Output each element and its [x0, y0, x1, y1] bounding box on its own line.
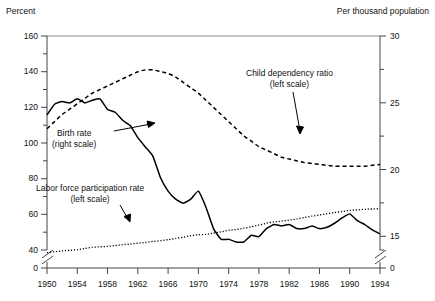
xtick-label-1966: 1966	[151, 279, 185, 289]
ytick-left-80: 80	[12, 173, 38, 183]
chart-container: Percent Per thousand population	[0, 0, 435, 301]
ytick-right-15: 15	[390, 231, 416, 241]
annotation-birth-rate-line2: (right scale)	[52, 139, 96, 150]
series-birth-rate	[47, 99, 380, 243]
annotation-birth-rate-line1: Birth rate	[52, 128, 96, 139]
x-axis-ticks	[47, 268, 380, 274]
annotation-child-dependency-line2: (left scale)	[246, 79, 333, 90]
series-labor-force-participation	[47, 209, 380, 253]
annotation-child-dependency: Child dependency ratio (left scale)	[246, 68, 333, 89]
xtick-label-1950: 1950	[30, 279, 64, 289]
ytick-left-0: 0	[12, 263, 38, 273]
chart-svg	[0, 0, 435, 301]
ytick-right-30: 30	[390, 31, 416, 41]
right-axis-ticks	[380, 36, 386, 268]
ytick-left-100: 100	[12, 138, 38, 148]
xtick-label-1970: 1970	[181, 279, 215, 289]
annotation-birth-rate: Birth rate (right scale)	[52, 128, 96, 149]
ytick-right-25: 25	[390, 98, 416, 108]
xtick-label-1978: 1978	[242, 279, 276, 289]
ytick-left-160: 160	[12, 31, 38, 41]
xtick-label-1994: 1994	[363, 279, 397, 289]
ytick-left-120: 120	[12, 102, 38, 112]
xtick-label-1990: 1990	[333, 279, 367, 289]
left-axis-ticks	[41, 36, 47, 268]
xtick-label-1986: 1986	[302, 279, 336, 289]
ytick-left-60: 60	[12, 209, 38, 219]
ytick-left-40: 40	[12, 245, 38, 255]
ytick-right-0: 0	[390, 263, 416, 273]
annotation-labor-force-line1: Labor force participation rate	[36, 183, 144, 194]
annotation-labor-force-line2: (left scale)	[36, 194, 144, 205]
xtick-label-1962: 1962	[121, 279, 155, 289]
xtick-label-1954: 1954	[60, 279, 94, 289]
ytick-left-140: 140	[12, 66, 38, 76]
axis-break-right	[375, 250, 386, 264]
annotation-labor-force: Labor force participation rate (left sca…	[36, 183, 144, 204]
annotation-child-dependency-line1: Child dependency ratio	[246, 68, 333, 79]
xtick-label-1958: 1958	[91, 279, 125, 289]
ytick-right-20: 20	[390, 165, 416, 175]
xtick-label-1974: 1974	[212, 279, 246, 289]
xtick-label-1982: 1982	[272, 279, 306, 289]
